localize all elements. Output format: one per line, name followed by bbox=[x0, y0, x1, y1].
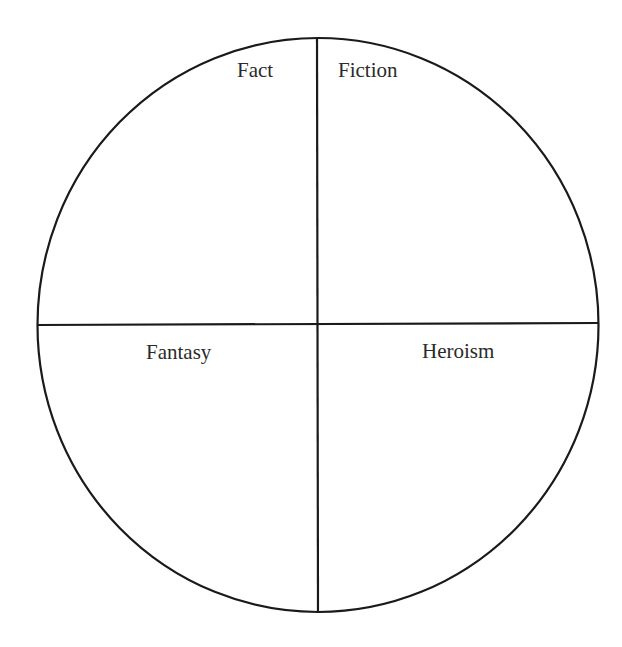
horizontal-divider bbox=[37, 323, 598, 325]
quadrant-label-top-right: Fiction bbox=[338, 60, 398, 81]
quadrant-label-bottom-right: Heroism bbox=[422, 341, 494, 362]
quadrant-label-bottom-left: Fantasy bbox=[146, 342, 211, 363]
quadrant-label-top-left: Fact bbox=[237, 60, 273, 81]
quadrant-diagram bbox=[0, 0, 622, 647]
